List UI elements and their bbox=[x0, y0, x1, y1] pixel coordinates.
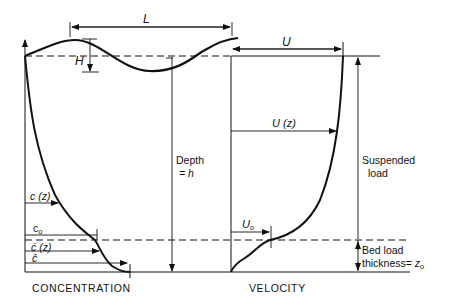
bed-load-label: Bed load bbox=[362, 244, 403, 256]
velocity-0-label: Uo bbox=[242, 218, 254, 234]
concentration-0-label: co bbox=[33, 222, 42, 238]
suspended-load-label: Suspended bbox=[362, 154, 415, 166]
depth-h-label: = h bbox=[179, 167, 194, 179]
wavelength-label: L bbox=[143, 13, 150, 25]
concentration-eps-label: ĉ bbox=[32, 252, 37, 264]
surface-velocity-label: U bbox=[282, 36, 291, 48]
concentration-axis-label: CONCENTRATION bbox=[32, 282, 131, 294]
bed-load-thickness-label: thickness= zo bbox=[362, 257, 424, 273]
depth-dimension bbox=[166, 57, 173, 271]
wave-surface-curve bbox=[25, 38, 238, 71]
depth-label: Depth bbox=[176, 154, 204, 166]
velocity-axis-label: VELOCITY bbox=[249, 282, 306, 294]
velocity-z-label: U (z) bbox=[272, 117, 296, 129]
concentration-z-label: c (z) bbox=[30, 190, 50, 202]
wave-height-label: H bbox=[75, 55, 84, 67]
suspended-load-label-line2: load bbox=[368, 167, 388, 179]
wavelength-dimension bbox=[70, 22, 232, 37]
